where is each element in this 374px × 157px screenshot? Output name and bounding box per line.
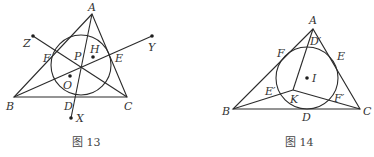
diagram-canvas: A B C D E F P H O X Y Z 图 13 A B C D E F… <box>0 0 374 157</box>
point-z <box>31 34 35 38</box>
point-y <box>150 34 154 38</box>
figure-14: A B C D E F D′ E′ F′ I K 图 14 <box>221 14 372 149</box>
label-b: B <box>221 105 230 118</box>
line-zc <box>33 36 127 97</box>
circle <box>51 35 111 95</box>
label-p: P <box>73 50 82 63</box>
point-o <box>68 74 72 78</box>
label-z: Z <box>22 37 31 50</box>
label-k: K <box>289 93 299 106</box>
point-i <box>305 76 309 80</box>
label-e: E <box>336 50 345 63</box>
figure-13-caption: 图 13 <box>72 136 101 149</box>
label-i: I <box>311 72 317 85</box>
label-f-prime: F′ <box>333 92 345 105</box>
label-f: F <box>276 47 285 60</box>
label-o: O <box>63 79 72 92</box>
label-y: Y <box>148 41 157 54</box>
line-by <box>14 36 152 97</box>
point-x <box>69 116 73 120</box>
label-c: C <box>124 100 133 113</box>
label-d: D <box>63 100 73 113</box>
label-x: X <box>75 112 85 125</box>
label-b: B <box>5 100 14 113</box>
line-ax <box>71 14 92 118</box>
label-d: D <box>301 111 311 124</box>
figure-13: A B C D E F P H O X Y Z 图 13 <box>5 1 157 149</box>
figure-14-caption: 图 14 <box>285 136 314 149</box>
label-f: F <box>42 52 51 65</box>
label-c: C <box>363 105 372 118</box>
label-e: E <box>114 52 123 65</box>
label-d-prime: D′ <box>309 35 322 48</box>
label-a: A <box>308 14 317 27</box>
label-e-prime: E′ <box>264 85 276 98</box>
label-h: H <box>89 43 100 56</box>
label-a: A <box>87 1 96 14</box>
